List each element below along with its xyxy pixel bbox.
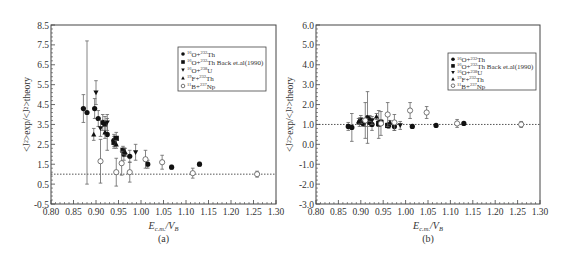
x-tick-label: 1.15 [200,207,217,217]
legend: 16O+232Th16O+232Th Back et.al(1990)16O+2… [448,53,536,91]
y-tick-label: 5.0 [302,40,314,50]
x-tick-label: 1.00 [397,207,414,217]
x-tick-label: 1.10 [442,207,459,217]
x-tick-label: 1.15 [464,207,481,217]
y-tick-label: 3.0 [302,80,314,90]
y-axis-label: <J²>exp/<J²>theory [22,77,32,152]
legend-entry: 16O+232Th Back et.al(1990) [187,58,264,67]
x-tick-label: 1.05 [420,207,437,217]
x-tick-label: 1.25 [245,207,262,217]
x-tick-label: 0.95 [375,207,392,217]
x-tick-label: 1.05 [155,207,172,217]
y-tick-label: 5.5 [37,80,49,90]
x-tick-label: 1.25 [509,207,526,217]
x-axis-label: Ec.m./VB [412,220,443,232]
x-axis: 0.800.850.900.951.001.051.101.151.201.25… [43,200,285,217]
y-tick-label: 0.5 [37,180,49,190]
legend: 16O+232Th16O+232Th Back et.al(1990)16O+2… [178,47,266,91]
series-1 [111,132,125,154]
x-tick-label: 1.10 [178,207,195,217]
x-tick-label: 1.30 [532,207,549,217]
y-tick-label: 4.0 [302,60,314,70]
y-tick-label: 1.5 [37,160,49,170]
y-tick-label: 7.5 [37,40,49,50]
y-tick-label: 6.5 [37,60,49,70]
x-tick-label: 0.85 [330,207,347,217]
x-tick-label: 0.95 [110,207,127,217]
chart-canvas: -0.50.51.52.53.54.55.56.57.58.50.800.850… [0,0,566,258]
chart-panel-b: -3.0-2.0-1.00.01.02.03.04.05.06.00.800.8… [285,21,549,246]
y-tick-label: 1.0 [302,120,314,130]
series-0 [346,92,467,144]
figure: -0.50.51.52.53.54.55.56.57.58.50.800.850… [0,0,566,258]
y-tick-label: -2.0 [299,180,314,190]
x-axis: 0.800.850.900.951.001.051.101.151.201.25… [308,200,549,217]
chart-panel-a: -0.50.51.52.53.54.55.56.57.58.50.800.850… [22,21,285,246]
x-tick-label: 1.30 [268,207,285,217]
y-tick-label: -1.0 [299,160,314,170]
y-tick-label: 2.5 [37,140,49,150]
x-tick-label: 0.90 [352,207,369,217]
y-tick-label: 4.5 [37,100,49,110]
y-axis-label: <J²>exp/<J²>theory [285,77,295,152]
y-tick-label: 8.5 [37,21,49,31]
series-4 [363,103,524,139]
y-tick-label: 2.0 [302,100,314,110]
x-tick-label: 1.20 [223,207,240,217]
y-tick-label: 6.0 [302,21,314,31]
x-tick-label: 0.90 [88,207,105,217]
x-tick-label: 0.85 [65,207,82,217]
y-axis: -0.50.51.52.53.54.55.56.57.58.5 [34,21,55,210]
x-tick-label: 0.80 [43,207,60,217]
y-axis: -3.0-2.0-1.00.01.02.03.04.05.06.0 [299,21,320,210]
x-tick-label: 1.00 [133,207,150,217]
x-axis-label: Ec.m./VB [148,220,179,232]
y-tick-label: 3.5 [37,120,49,130]
panel-label: (b) [422,233,434,245]
panel-label: (a) [158,233,169,245]
x-tick-label: 1.20 [487,207,504,217]
y-tick-label: 0.0 [302,140,314,150]
x-tick-label: 0.80 [308,207,325,217]
